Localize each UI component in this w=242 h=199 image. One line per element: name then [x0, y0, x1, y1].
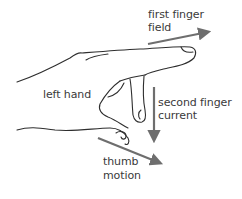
motion-label: motion: [103, 169, 141, 182]
field-label: field: [148, 21, 171, 34]
left-hand-rule-diagram: first finger field left hand second fing…: [0, 0, 242, 199]
thumb-label: thumb: [103, 155, 138, 168]
left-hand-label: left hand: [43, 88, 91, 101]
first-finger-label: first finger: [148, 8, 204, 21]
current-label: current: [158, 109, 197, 122]
second-finger-label: second finger: [158, 96, 232, 109]
